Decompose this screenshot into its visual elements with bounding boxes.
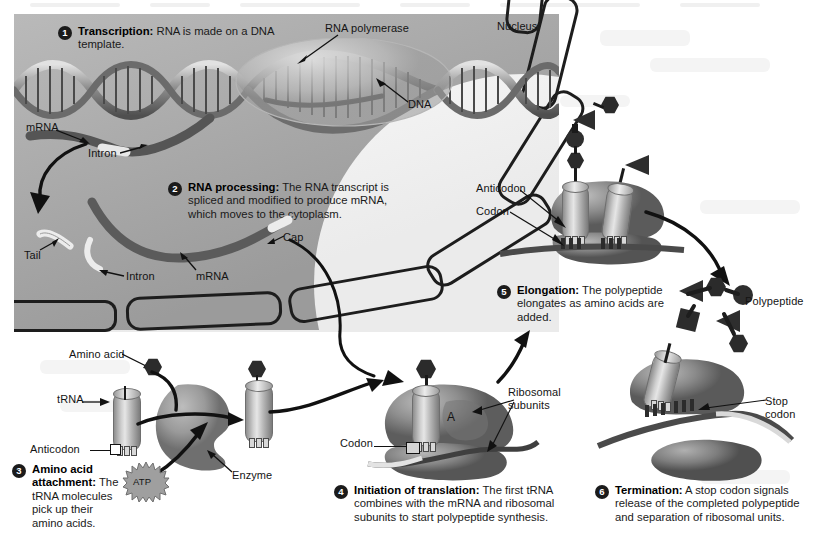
label-anticodon-trna: Anticodon [30, 443, 80, 455]
leader-codon-initiation [374, 446, 406, 447]
label-codon-elongation: Codon [476, 205, 509, 217]
label-trna: tRNA [57, 393, 84, 405]
step-4-badge: 4 [334, 485, 348, 499]
stop-codon-tick [645, 405, 649, 417]
step-2-badge: 2 [168, 182, 182, 196]
anticodon-box [110, 444, 121, 455]
leader-trna [82, 396, 112, 410]
arrow-amino-acid-into-enzyme [148, 370, 208, 420]
anticodon-prong [124, 446, 130, 456]
anticodon-prong [256, 438, 262, 448]
scan-blob [40, 360, 130, 374]
codon-box-initiation [406, 442, 420, 454]
leader-dna [374, 78, 410, 104]
nuclear-envelope-segment [125, 291, 282, 332]
step-4-text: Initiation of translation: The first tRN… [354, 484, 584, 524]
scan-blob [650, 58, 770, 72]
label-polypeptide: Polypeptide [745, 295, 804, 307]
polypeptide-residue-hexagon [567, 152, 584, 169]
step-3-text: Amino acid attachment: The tRNA molecule… [32, 463, 120, 530]
leader-intron-top [120, 143, 150, 159]
label-codon-initiation: Codon [340, 437, 373, 449]
incoming-amino-acid-triangle [625, 155, 649, 175]
label-mrna-top: mRNA [26, 121, 59, 133]
step-4-heading: Initiation of translation: [354, 484, 480, 496]
polypeptide-bond [574, 146, 577, 154]
leader-codon-elongation [510, 210, 568, 250]
step-3-badge: 3 [12, 464, 26, 478]
step-6-badge: 6 [595, 485, 609, 499]
step-6-heading: Termination: [615, 484, 683, 496]
step-2-heading: RNA processing: [188, 181, 279, 193]
trna-top-cap [113, 388, 141, 400]
codon-tick [569, 238, 573, 249]
codon-tick [577, 238, 581, 249]
polypeptide-bond [572, 124, 578, 133]
leader-ribosomal-subunits [462, 392, 518, 454]
stop-codon-tick [653, 404, 657, 416]
stop-codon-tick [682, 400, 686, 412]
stop-codon-text: Stop codon [765, 395, 795, 420]
step-1-heading: Transcription: [78, 25, 153, 37]
step-3-heading: Amino acid attachment: [32, 463, 96, 488]
label-a-site: A [447, 410, 455, 424]
leader-stop-codon [694, 398, 768, 412]
label-mrna-bottom: mRNA [196, 270, 229, 282]
label-dna: DNA [408, 98, 432, 110]
label-amino-acid: Amino acid [69, 348, 124, 360]
trna-attachment-stalk [124, 386, 126, 400]
codon-tick [617, 238, 621, 249]
stop-codon-tick [674, 401, 678, 413]
label-stop-codon: Stop codon [765, 395, 815, 421]
scan-blob [600, 30, 690, 46]
step-1-badge: 1 [58, 26, 72, 40]
scan-artifact-strip [0, 0, 831, 14]
leader-mrna-bottom [178, 252, 200, 272]
codon-tick [601, 238, 605, 249]
anticodon-prong [263, 438, 269, 448]
arrow-mrna-to-cytoplasm [282, 236, 412, 386]
step-5-heading: Elongation: [517, 284, 579, 296]
anticodon-prong [131, 446, 137, 456]
leader-anticodon-trna [90, 450, 112, 451]
step-6-text: Termination: A stop codon signals releas… [615, 484, 815, 524]
leader-rna-polymerase [295, 33, 340, 65]
step-5-badge: 5 [497, 285, 511, 299]
label-enzyme: Enzyme [232, 469, 272, 481]
stop-codon-tick [661, 403, 665, 415]
nuclear-envelope-segment [14, 300, 117, 332]
anticodon-prong [249, 438, 255, 448]
codon-tick [609, 238, 613, 249]
trna-a-site [601, 187, 633, 240]
step-1-text: Transcription: RNA is made on a DNA temp… [78, 25, 278, 52]
label-anticodon-elongation: Anticodon [476, 182, 526, 194]
arrow-initiation-to-elongation [492, 330, 532, 386]
protein-synthesis-figure: RNA polymerase DNA 1 Transcription: RNA … [0, 0, 831, 552]
label-atp: ATP [133, 476, 151, 487]
step-5-text: Elongation: The polypeptide elongates as… [517, 284, 677, 324]
polypeptide-backbone [672, 276, 764, 362]
leader-tail [38, 238, 60, 252]
trna-top-cap [412, 385, 440, 397]
label-nucleus: Nucleus [497, 20, 537, 32]
